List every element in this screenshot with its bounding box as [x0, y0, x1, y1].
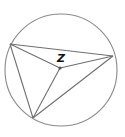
segment-az	[10, 44, 60, 68]
circle-geometry-diagram: Z	[0, 0, 125, 137]
segment-ac	[10, 44, 33, 118]
segment-zc	[33, 68, 60, 118]
center-point-z	[58, 66, 61, 69]
circumscribed-circle	[5, 14, 117, 126]
center-label: Z	[56, 52, 66, 65]
